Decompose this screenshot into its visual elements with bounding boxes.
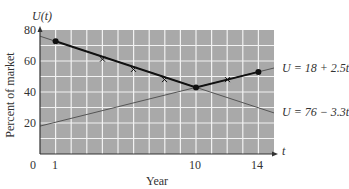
y-tick-80: 80: [24, 24, 36, 36]
y-tick-40: 40: [24, 86, 36, 98]
y-tick-60: 60: [24, 55, 36, 67]
x-tick-10: 10: [189, 159, 201, 171]
x-axis-arrow-icon: [272, 152, 278, 157]
x-axis-symbol: t: [282, 145, 285, 157]
equation-increasing: U = 18 + 2.5t: [282, 62, 349, 74]
y-axis-arrow-icon: [38, 26, 43, 32]
y-axis-symbol: U(t): [32, 10, 52, 22]
equation-decreasing: U = 76 − 3.3t: [282, 106, 349, 118]
x-tick-0: 0: [30, 159, 36, 171]
y-axis-label: Percent of market: [3, 52, 18, 137]
x-tick-1: 1: [52, 159, 58, 171]
x-axis-label: Year: [146, 175, 168, 187]
x-tick-14: 14: [251, 159, 263, 171]
y-tick-20: 20: [24, 117, 36, 129]
